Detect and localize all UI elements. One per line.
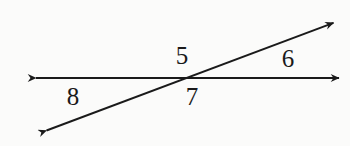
angle-label-5: 5 [176, 43, 189, 68]
angle-label-6: 6 [282, 46, 295, 71]
geometry-diagram: 5 6 7 8 [0, 0, 350, 146]
angle-label-7: 7 [186, 84, 199, 109]
angle-label-8: 8 [67, 84, 80, 109]
intersecting-lines-figure [0, 0, 350, 146]
transversal-line [47, 23, 334, 131]
